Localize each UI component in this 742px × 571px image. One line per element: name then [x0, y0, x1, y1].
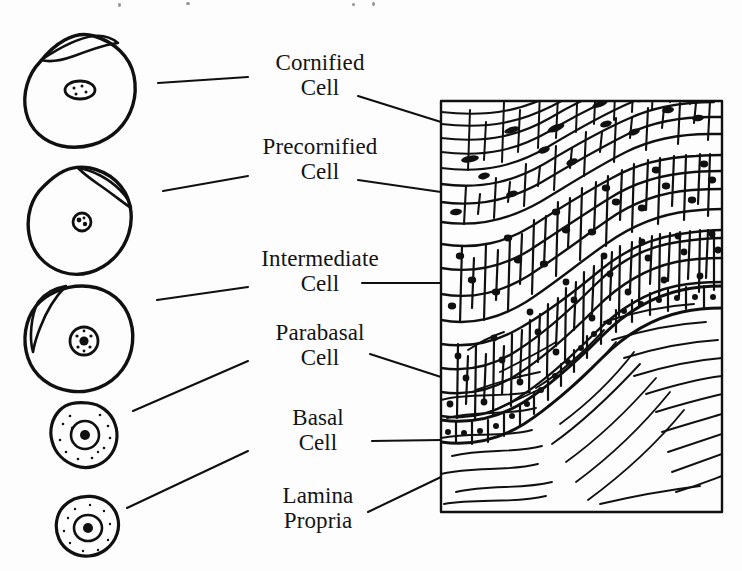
label-intermediate-line2: Cell	[228, 271, 412, 297]
basal-cell-drawing	[56, 496, 118, 556]
label-basal-cell: Basal Cell	[248, 405, 388, 456]
label-basal-line2: Cell	[248, 430, 388, 456]
label-precornified-line2: Cell	[228, 159, 412, 185]
scan-artifact	[186, 2, 190, 5]
label-cornified-line1: Cornified	[238, 50, 402, 76]
cornified-cell-drawing	[25, 35, 135, 148]
label-cornified-line2: Cell	[238, 75, 402, 101]
label-lamina-propria: Lamina Propria	[242, 483, 394, 534]
label-lamina-line2: Propria	[242, 508, 394, 534]
leader-parabasal-left	[133, 361, 248, 411]
label-precornified-cell: Precornified Cell	[228, 134, 412, 185]
label-intermediate-cell: Intermediate Cell	[228, 246, 412, 297]
label-precornified-line1: Precornified	[228, 134, 412, 160]
scan-artifact	[118, 3, 121, 7]
precornified-cell-drawing	[28, 167, 131, 274]
label-parabasal-line2: Cell	[236, 345, 404, 371]
tissue-panel	[441, 54, 722, 512]
scan-artifact	[372, 2, 375, 6]
parabasal-cell-drawing	[51, 403, 117, 468]
label-parabasal-line1: Parabasal	[236, 320, 404, 346]
intermediate-cell-drawing	[25, 286, 133, 392]
scan-artifact	[352, 3, 355, 6]
leader-basal-left	[127, 451, 248, 508]
label-basal-line1: Basal	[248, 405, 388, 431]
figure-canvas: Cornified Cell Precornified Cell Interme…	[0, 0, 742, 571]
label-cornified-cell: Cornified Cell	[238, 50, 402, 101]
label-lamina-line1: Lamina	[242, 483, 394, 509]
label-intermediate-line1: Intermediate	[228, 246, 412, 272]
leader-cornified-left	[158, 77, 248, 83]
label-parabasal-cell: Parabasal Cell	[236, 320, 404, 371]
